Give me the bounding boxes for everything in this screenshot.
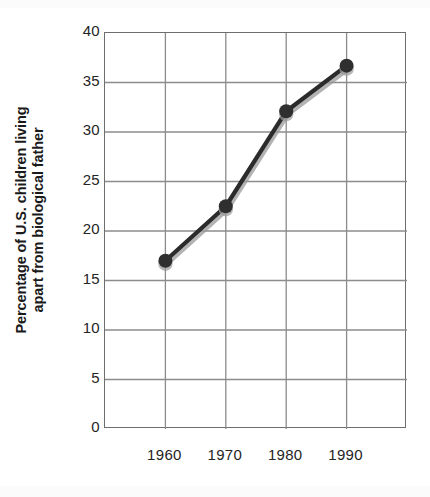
x-tick-label-1960: 1960 <box>147 446 182 463</box>
y-tick-label-35: 35 <box>60 72 100 89</box>
data-point-1960 <box>158 254 172 268</box>
y-axis-title-line-2: apart from biological father <box>30 106 47 333</box>
y-tick-label-30: 30 <box>60 121 100 138</box>
plot-area <box>104 32 406 428</box>
x-tick-label-1980: 1980 <box>268 446 303 463</box>
y-tick-label-20: 20 <box>60 220 100 237</box>
x-tick-label-1970: 1970 <box>208 446 243 463</box>
chart-canvas <box>105 33 407 429</box>
data-point-1970 <box>219 199 233 213</box>
x-axis-tick-labels: 1960197019801990 <box>0 440 430 470</box>
y-tick-label-40: 40 <box>60 22 100 39</box>
y-axis-title: Percentage of U.S. children living apart… <box>0 0 60 440</box>
y-tick-label-15: 15 <box>60 270 100 287</box>
chart-figure: Percentage of U.S. children living apart… <box>0 0 430 497</box>
y-tick-label-10: 10 <box>60 319 100 336</box>
data-point-1990 <box>340 59 354 73</box>
y-tick-label-25: 25 <box>60 171 100 188</box>
y-tick-label-5: 5 <box>60 369 100 386</box>
x-tick-label-1990: 1990 <box>328 446 363 463</box>
y-axis-tick-labels: 0510152025303540 <box>58 0 100 497</box>
y-axis-title-line-1: Percentage of U.S. children living <box>13 106 30 333</box>
y-tick-label-0: 0 <box>60 418 100 435</box>
gridlines-horizontal <box>105 83 407 380</box>
data-point-1980 <box>279 104 293 118</box>
